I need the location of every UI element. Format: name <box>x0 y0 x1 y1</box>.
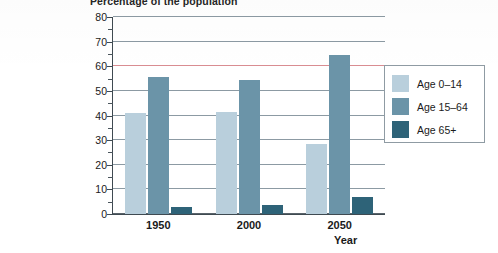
legend-swatch-age-65-plus <box>392 121 409 138</box>
y-tick-minor-5 <box>108 202 113 203</box>
legend-label: Age 0–14 <box>417 78 462 90</box>
x-tick-label-1950: 1950 <box>146 219 170 231</box>
bar <box>216 112 237 214</box>
y-tick-major-30 <box>107 140 113 141</box>
y-tick-label-80: 80 <box>95 11 107 23</box>
gridline-70 <box>113 41 385 42</box>
y-tick-major-0 <box>107 214 113 215</box>
x-axis-title: Year <box>334 234 357 246</box>
x-tick-label-2000: 2000 <box>237 219 261 231</box>
y-tick-major-50 <box>107 91 113 92</box>
bar <box>171 207 192 214</box>
bar <box>352 197 373 214</box>
chart-title: Percentage of the population <box>90 0 237 7</box>
bar <box>262 205 283 214</box>
legend-swatch-age-0-14 <box>392 75 409 92</box>
legend-item[interactable]: Age 0–14 <box>385 73 484 94</box>
y-axis-tick-labels: 01020304050607080 <box>76 0 107 253</box>
y-tick-minor-55 <box>108 79 113 80</box>
x-axis-line <box>113 214 385 215</box>
y-tick-major-20 <box>107 165 113 166</box>
x-tick-label-2050: 2050 <box>327 219 351 231</box>
legend-label: Age 65+ <box>417 124 456 136</box>
y-tick-label-40: 40 <box>95 110 107 122</box>
bar <box>306 144 327 214</box>
y-tick-label-20: 20 <box>95 159 107 171</box>
bar <box>125 113 146 214</box>
legend-swatch-age-15-64 <box>392 98 409 115</box>
y-tick-minor-45 <box>108 103 113 104</box>
y-tick-major-70 <box>107 42 113 43</box>
y-tick-major-60 <box>107 66 113 67</box>
y-tick-label-60: 60 <box>95 60 107 72</box>
y-tick-minor-75 <box>108 29 113 30</box>
bar-chart: Percentage of the population 01020304050… <box>0 0 498 253</box>
y-tick-label-10: 10 <box>95 183 107 195</box>
y-tick-minor-35 <box>108 128 113 129</box>
y-tick-label-70: 70 <box>95 36 107 48</box>
y-tick-label-30: 30 <box>95 134 107 146</box>
y-tick-major-40 <box>107 116 113 117</box>
bar <box>239 80 260 214</box>
bar <box>329 55 350 214</box>
y-tick-label-50: 50 <box>95 85 107 97</box>
chart-legend: Age 0–14 Age 15–64 Age 65+ <box>384 65 485 143</box>
y-tick-minor-65 <box>108 54 113 55</box>
y-tick-minor-15 <box>108 177 113 178</box>
gridline-80 <box>113 16 385 17</box>
y-tick-minor-25 <box>108 152 113 153</box>
bar <box>148 77 169 214</box>
y-tick-major-10 <box>107 189 113 190</box>
legend-item[interactable]: Age 15–64 <box>385 96 484 117</box>
legend-item[interactable]: Age 65+ <box>385 119 484 140</box>
legend-label: Age 15–64 <box>417 101 468 113</box>
plot-area <box>113 17 385 214</box>
y-tick-major-80 <box>107 17 113 18</box>
